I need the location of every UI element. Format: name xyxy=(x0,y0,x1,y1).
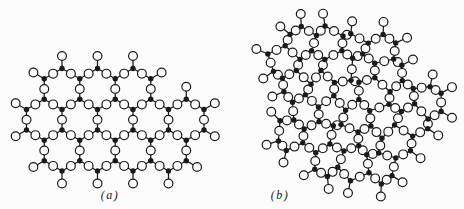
zachariasen-network-figure: (a) (b) xyxy=(0,0,464,209)
panel-b-label: (b) xyxy=(256,188,304,202)
network-diagram-canvas xyxy=(0,0,464,209)
panel-a-label: (a) xyxy=(86,188,134,202)
